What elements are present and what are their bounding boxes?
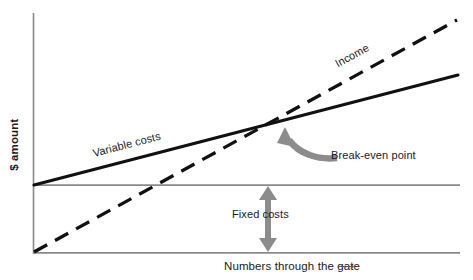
y-axis-label: $ amount	[9, 115, 21, 175]
break-even-arrow	[277, 127, 337, 158]
break-even-point-label: Break-even point	[331, 150, 416, 161]
variable-costs-line	[34, 75, 458, 185]
chart-canvas	[0, 0, 473, 280]
x-axis-arrow-icon: ⟶	[337, 261, 354, 273]
fixed-costs-label: Fixed costs	[232, 209, 289, 220]
break-even-chart: $ amount Numbers through the gate ⟶ Vari…	[0, 0, 473, 280]
